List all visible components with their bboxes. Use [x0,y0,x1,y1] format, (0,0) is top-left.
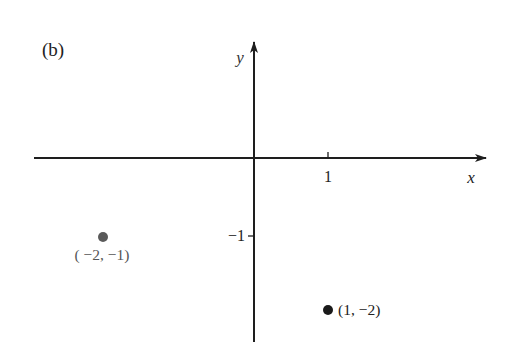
point-1-minus2 [323,305,333,315]
point-minus2-minus1 [98,232,108,242]
y-tick-label-minus-1: −1 [228,227,245,244]
panel-label: (b) [42,40,64,59]
y-axis-label: y [234,48,244,67]
x-axis-label: x [466,168,475,187]
point-label-1-minus2: (1, −2) [338,301,380,319]
point-label-minus2-minus1: ( −2, −1) [75,246,130,264]
x-tick-label-1: 1 [324,168,332,185]
plot-svg: 1 −1 x y ( −2, −1) (1, −2) [0,0,511,355]
coordinate-plane-figure: (b) 1 −1 x y ( −2, −1) (1, −2) [0,0,511,355]
